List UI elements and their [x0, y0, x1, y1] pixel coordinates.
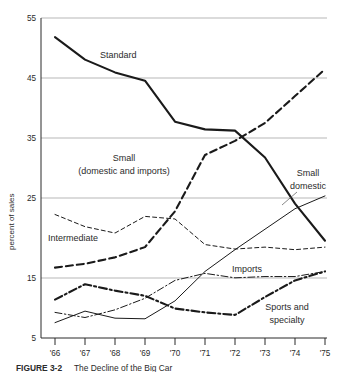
- y-tick-15: 15: [27, 274, 37, 283]
- x-tick-marks: [55, 338, 325, 345]
- x-tick-labels: '66 '67 '68 '69 '70 '71 '72 '73 '74 '75: [50, 349, 331, 358]
- series-line-standard: [55, 37, 325, 241]
- annotation-small-line2: (domestic and imports): [78, 166, 170, 176]
- annotation-standard: Standard: [100, 50, 137, 60]
- y-tick-55: 55: [27, 14, 37, 23]
- y-tick-35: 35: [27, 134, 37, 143]
- annotation-sports-line1: Sports and: [265, 302, 309, 312]
- x-tick-label-9: '75: [320, 349, 331, 358]
- annotation-sports-line2: specialty: [269, 315, 305, 325]
- annotation-intermediate: Intermediate: [48, 233, 98, 243]
- x-tick-label-1: '67: [80, 349, 91, 358]
- x-tick-label-7: '73: [260, 349, 271, 358]
- x-tick-label-2: '68: [110, 349, 121, 358]
- axes: [41, 18, 327, 338]
- y-tick-25: 25: [27, 194, 37, 203]
- figure-caption-text: The Decline of the Big Car: [74, 363, 172, 372]
- y-tick-5: 5: [31, 334, 36, 343]
- annotation-imports: Imports: [232, 264, 263, 274]
- y-tick-45: 45: [27, 74, 37, 83]
- figure-container: 55 45 35 25 15 5 percent of sales '66 '6…: [0, 0, 339, 372]
- y-axis-label: percent of sales: [7, 194, 16, 250]
- series-layer: [55, 37, 325, 322]
- y-tick-labels: 55 45 35 25 15 5: [27, 14, 37, 343]
- figure-caption-label: FIGURE 3-2: [16, 363, 62, 372]
- x-tick-label-5: '71: [200, 349, 211, 358]
- x-tick-label-8: '74: [290, 349, 301, 358]
- x-tick-label-3: '69: [140, 349, 151, 358]
- annotation-small-line1: Small: [113, 153, 136, 163]
- x-tick-label-6: '72: [230, 349, 241, 358]
- x-tick-label-0: '66: [50, 349, 61, 358]
- annotation-small-domestic-line1: Small: [297, 168, 320, 178]
- figure-caption: FIGURE 3-2 The Decline of the Big Car: [16, 363, 172, 372]
- x-tick-label-4: '70: [170, 349, 181, 358]
- annotation-small-domestic-line2: domestic: [290, 181, 327, 191]
- line-chart: 55 45 35 25 15 5 percent of sales '66 '6…: [0, 0, 339, 372]
